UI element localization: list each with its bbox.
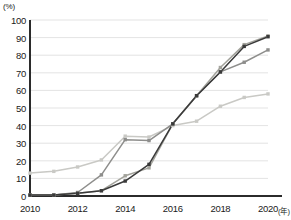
x-axis-unit-label: (年)	[278, 205, 290, 216]
x-axis-tick-2014: 2014	[115, 203, 135, 214]
x-axis-tick-2020: 2020	[258, 203, 278, 214]
line-series-2-medium-gray	[30, 50, 268, 195]
marker-series-2-medium-gray-2020	[266, 48, 269, 51]
marker-series-4-dark-2013	[100, 189, 103, 192]
marker-series-4-dark-2014	[124, 179, 127, 182]
marker-series-1-light-gray-2017	[195, 120, 198, 123]
marker-series-2-medium-gray-2015	[147, 139, 150, 142]
series-lines	[30, 36, 268, 195]
marker-series-2-medium-gray-2019	[243, 61, 246, 64]
marker-series-4-dark-2019	[243, 45, 246, 48]
gridlines	[30, 20, 268, 178]
x-axis-tick-2012: 2012	[68, 203, 88, 214]
marker-series-4-dark-2020	[266, 35, 269, 38]
marker-series-1-light-gray-2020	[266, 92, 269, 95]
line-chart: (%) 0102030405060708090100 2010201220142…	[0, 0, 291, 220]
x-axis-tick-2018: 2018	[210, 203, 230, 214]
line-series-4-dark	[30, 37, 268, 195]
marker-series-1-light-gray-2018	[219, 105, 222, 108]
marker-series-4-dark-2010	[28, 193, 31, 196]
marker-series-2-medium-gray-2013	[100, 173, 103, 176]
marker-series-2-medium-gray-2014	[124, 138, 127, 141]
marker-series-1-light-gray-2013	[100, 158, 103, 161]
marker-series-4-dark-2018	[219, 70, 222, 73]
marker-series-1-light-gray-2011	[52, 170, 55, 173]
marker-series-4-dark-2011	[52, 193, 55, 196]
marker-series-4-dark-2015	[147, 163, 150, 166]
marker-series-1-light-gray-2012	[76, 165, 79, 168]
marker-series-4-dark-2012	[76, 192, 79, 195]
marker-series-1-light-gray-2014	[124, 134, 127, 137]
marker-series-3-gray-2014	[124, 174, 127, 177]
marker-series-1-light-gray-2010	[28, 171, 31, 174]
marker-series-4-dark-2017	[195, 94, 198, 97]
marker-series-3-gray-2018	[219, 66, 222, 69]
x-axis-tick-2016: 2016	[163, 203, 183, 214]
marker-series-4-dark-2016	[171, 122, 174, 125]
chart-canvas	[0, 0, 291, 220]
marker-series-1-light-gray-2019	[243, 96, 246, 99]
marker-series-3-gray-2015	[147, 166, 150, 169]
x-axis-tick-2010: 2010	[20, 203, 40, 214]
marker-series-1-light-gray-2015	[147, 135, 150, 138]
line-series-1-light-gray	[30, 94, 268, 173]
